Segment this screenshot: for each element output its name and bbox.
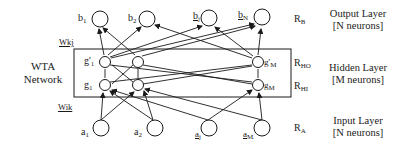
node-a2 (147, 120, 163, 136)
label-bj: bj (193, 11, 200, 23)
hidden-input-nodes (100, 80, 264, 91)
label-aj: aj (195, 130, 201, 141)
node-gM (253, 80, 264, 91)
input-layer-count: [N neurons] (318, 127, 398, 139)
hidden-layer-description: Hidden Layer [M neurons] (318, 62, 398, 86)
wta-label-line1: WTA (18, 60, 68, 73)
node-g-prime-2 (133, 57, 144, 68)
node-b2 (139, 11, 155, 27)
output-layer-count: [N neurons] (318, 20, 398, 32)
node-g-prime-1 (100, 57, 111, 68)
weight-label-wkj: Wkj (59, 38, 74, 47)
hidden-internal-connections (105, 65, 258, 84)
node-g1 (100, 80, 111, 91)
wta-network-label: WTA Network (18, 60, 68, 86)
node-b1 (92, 11, 108, 27)
node-bj (201, 10, 217, 26)
node-g-prime-M (253, 57, 264, 68)
node-bN (254, 9, 270, 25)
hidden-layer-title: Hidden Layer (318, 62, 398, 74)
label-gM: gM (264, 81, 275, 92)
label-g1: g1 (84, 80, 93, 92)
hidden-layer-count: [M neurons] (318, 74, 398, 86)
region-label-RHI: RHI (294, 81, 308, 93)
label-b2: b2 (128, 13, 137, 25)
node-aj (201, 120, 217, 136)
label-a1: a1 (81, 127, 89, 139)
input-to-hidden-connections (101, 89, 262, 120)
label-a2: a2 (134, 127, 142, 139)
node-g2 (133, 80, 144, 91)
input-layer-description: Input Layer [N neurons] (318, 115, 398, 139)
label-g-prime-1: g'1 (84, 56, 94, 68)
input-layer-title: Input Layer (318, 115, 398, 127)
region-label-RB: RB (294, 14, 305, 26)
label-aM: aM (243, 130, 253, 141)
region-label-RA: RA (294, 123, 306, 135)
hidden-to-output-connections (99, 24, 261, 58)
weight-label-wik: Wik (58, 103, 72, 112)
output-layer-title: Output Layer (318, 8, 398, 20)
wta-label-line2: Network (18, 73, 68, 86)
region-label-RHO: RHO (294, 58, 311, 70)
label-g-prime-M: g'M (264, 58, 276, 69)
node-aM (254, 120, 270, 136)
label-bN: bN (238, 10, 248, 22)
label-b1: b1 (78, 13, 87, 25)
output-layer-description: Output Layer [N neurons] (318, 8, 398, 32)
node-a1 (93, 120, 109, 136)
hidden-output-nodes (100, 57, 264, 68)
